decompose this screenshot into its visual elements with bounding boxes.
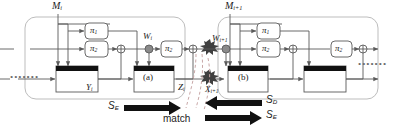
label-se-right: SE	[266, 110, 277, 121]
w-node-left	[145, 45, 153, 53]
label-pi2-right-right-stage: π2	[335, 44, 342, 54]
label-se-left: SE	[108, 101, 119, 112]
block-a-header	[134, 66, 174, 71]
w-node-right	[222, 45, 230, 53]
y-block-header-left	[56, 66, 98, 71]
figure-canvas: Mi Mi+1 π1 π2 π2 π1 π2 π2 Wi Wi+1 Yi Zi …	[0, 0, 402, 131]
match-dash-2	[196, 54, 203, 108]
ellipsis-right: •••••••	[358, 60, 387, 69]
direction-arrows	[124, 96, 262, 125]
label-pi1-right: π1	[262, 26, 269, 36]
label-pi2-right-left-stage: π2	[165, 44, 172, 54]
label-x-right: Xi+1	[205, 85, 219, 95]
label-sd: SD	[266, 95, 277, 106]
arrow-se-right-glyph	[205, 111, 262, 125]
label-z-left: Zi	[178, 83, 185, 93]
label-pi1-left: π1	[90, 26, 97, 36]
label-match: match	[163, 114, 190, 124]
label-block-b: (b)	[238, 73, 249, 82]
label-block-a: (a)	[143, 73, 153, 82]
block-diagram-svg	[0, 0, 402, 131]
match-dash-1	[186, 54, 196, 108]
tail-block-header-right	[304, 66, 346, 71]
label-w-right: Wi+1	[212, 34, 228, 44]
label-w-left: Wi	[143, 32, 152, 42]
block-b-header	[228, 66, 268, 71]
label-y-left: Yi	[86, 83, 93, 93]
label-pi2-right: π2	[262, 44, 269, 54]
arrow-sd-glyph	[205, 96, 262, 110]
label-pi2-left: π2	[90, 44, 97, 54]
label-m-right: Mi+1	[225, 1, 242, 12]
label-m-left: Mi	[52, 1, 62, 12]
ellipsis-left: •••••••	[10, 73, 39, 82]
